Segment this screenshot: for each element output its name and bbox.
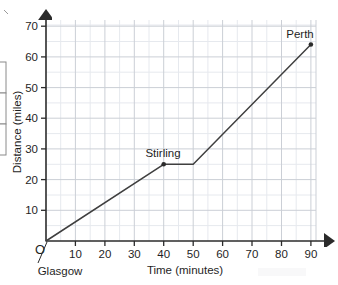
data-point-stirling	[161, 162, 166, 167]
answer-box-fragment	[0, 62, 6, 155]
perth-label: Perth	[286, 28, 314, 40]
x-tick-label-40: 40	[157, 248, 170, 260]
x-tick-label-10: 10	[69, 248, 82, 260]
y-tick-label-60: 60	[25, 51, 38, 63]
x-tick-label-60: 60	[216, 248, 229, 260]
y-tick-label-40: 40	[25, 112, 38, 124]
x-tick-label-50: 50	[187, 248, 200, 260]
x-tick-label-70: 70	[246, 248, 259, 260]
x-tick-label-20: 20	[99, 248, 112, 260]
y-axis-title: Distance (miles)	[11, 91, 23, 174]
y-tick-label-70: 70	[25, 20, 38, 32]
y-tick-label-50: 50	[25, 82, 38, 94]
y-tick-label-10: 10	[25, 204, 38, 216]
y-tick-label-20: 20	[25, 174, 38, 186]
data-point-perth	[309, 42, 314, 47]
x-tick-label-80: 80	[275, 248, 288, 260]
canvas-background	[0, 0, 338, 285]
x-axis-title: Time (minutes)	[147, 264, 223, 276]
chart-screenshot: 70 60 50 40 30 20 10 10 20 30 40 50 60 7…	[0, 0, 338, 285]
glasgow-label: Glasgow	[38, 265, 83, 277]
watermark-smudge	[258, 268, 306, 276]
x-tick-labels: 10 20 30 40 50 60 70 80 90	[69, 248, 317, 260]
x-tick-label-90: 90	[305, 248, 318, 260]
stirling-label: Stirling	[145, 147, 180, 159]
distance-time-graph: 70 60 50 40 30 20 10 10 20 30 40 50 60 7…	[0, 0, 338, 285]
y-tick-label-30: 30	[25, 143, 38, 155]
x-tick-label-30: 30	[128, 248, 141, 260]
